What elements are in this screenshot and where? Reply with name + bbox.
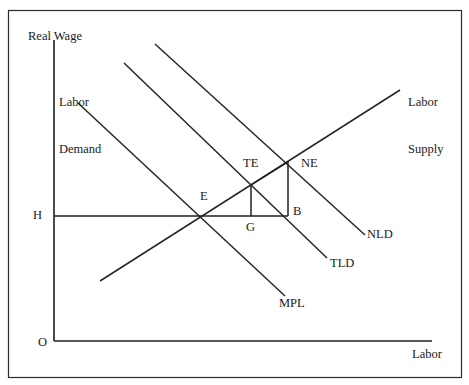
labor-demand-label: Labor Demand (59, 64, 101, 189)
point-label-ne: NE (301, 156, 318, 170)
labor-supply-label-line2: Supply (408, 142, 443, 158)
point-label-g: G (246, 220, 255, 234)
point-label-b: B (293, 204, 301, 218)
point-label-te: TE (243, 156, 258, 170)
mpl-curve-label: MPL (279, 296, 305, 310)
tld-curve-label: TLD (330, 256, 354, 270)
labor-demand-label-line2: Demand (59, 142, 101, 158)
mpl-curve (78, 103, 285, 296)
wage-level-label-h: H (33, 208, 42, 222)
x-axis-label: Labor (412, 347, 442, 361)
labor-demand-label-line1: Labor (59, 95, 101, 111)
labor-supply-curve (100, 90, 400, 281)
y-axis-label: Real Wage (28, 29, 82, 43)
labor-supply-label: Labor Supply (408, 64, 443, 189)
nld-curve-label: NLD (367, 227, 393, 241)
tld-curve (124, 63, 327, 258)
labor-market-diagram (0, 0, 469, 385)
origin-label: O (38, 335, 47, 349)
labor-supply-label-line1: Labor (408, 95, 443, 111)
nld-curve (155, 44, 365, 235)
diagram-canvas: Real Wage Labor O H Labor Demand Labor S… (0, 0, 469, 385)
point-label-e: E (200, 189, 208, 203)
